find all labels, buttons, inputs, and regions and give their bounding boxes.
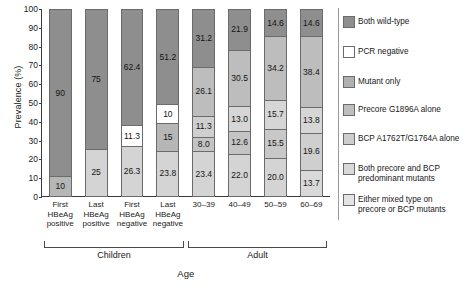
x-tick-line: 60–69: [294, 200, 328, 210]
bar-segment-value: 10: [163, 110, 172, 119]
bar-segment-value: 15.5: [267, 139, 284, 148]
legend-label: Both precore and BCP predominant mutants: [358, 163, 440, 183]
bar-segment-value: 34.2: [267, 64, 284, 73]
bar-segment-value: 75: [91, 75, 100, 84]
bar-segment: 38.4: [301, 37, 322, 108]
bar-column[interactable]: 14.634.215.715.520.0: [258, 9, 294, 197]
legend-swatch: [343, 163, 355, 175]
bar-segment-value: 62.4: [124, 63, 141, 72]
legend-label: Either mixed type on precore or BCP muta…: [358, 194, 446, 214]
bar-segment: 26.1: [193, 68, 214, 117]
bar-column[interactable]: 21.930.513.012.622.0: [222, 9, 258, 197]
bar-segment: 10: [50, 177, 71, 196]
x-tick-line: positive: [43, 219, 77, 229]
y-tick-10: 10: [12, 174, 38, 182]
bar-segment: 11.3: [122, 126, 143, 147]
legend-item[interactable]: Both wild-type: [343, 16, 409, 28]
legend-item[interactable]: Precore G1896A alone: [343, 104, 441, 116]
y-tick-100: 100: [12, 5, 38, 13]
bar-segment: 51.2: [157, 10, 178, 105]
x-tick-line: negative: [151, 219, 185, 229]
x-tick-line: negative: [115, 219, 149, 229]
legend-swatch: [343, 133, 355, 145]
legend-item[interactable]: Either mixed type on precore or BCP muta…: [343, 194, 446, 214]
x-tick-line: HBeAg: [115, 210, 149, 220]
legend-label: Mutant only: [358, 76, 400, 87]
bar-segment-value: 13.0: [231, 115, 248, 124]
x-tick-label: 50–59: [258, 200, 294, 229]
legend-item[interactable]: Mutant only: [343, 76, 400, 88]
bar-column[interactable]: 7525: [78, 9, 114, 197]
y-tick-50: 50: [12, 99, 38, 107]
bar-segment-value: 10: [56, 182, 65, 191]
x-tick-line: First: [115, 200, 149, 210]
x-tick-line: HBeAg: [151, 210, 185, 220]
bar-segment-value: 26.1: [195, 87, 212, 96]
x-tick-line: 50–59: [259, 200, 293, 210]
bar-column[interactable]: 9010: [42, 9, 78, 197]
bar-segment: 15.7: [265, 101, 286, 130]
legend-swatch: [343, 76, 355, 88]
legend-item[interactable]: PCR negative: [343, 46, 409, 58]
x-axis-title: Age: [42, 268, 329, 279]
bar-segment-value: 90: [56, 89, 65, 98]
bar-segment: 90: [50, 10, 71, 177]
legend-label: Precore G1896A alone: [358, 104, 441, 115]
bar-segment-value: 8.0: [198, 140, 210, 149]
bar-segment: 21.9: [229, 10, 250, 51]
x-tick-label: FirstHBeAgnegative: [114, 200, 150, 229]
bar-segment-value: 19.6: [303, 147, 320, 156]
bar-column[interactable]: 51.2101523.8: [150, 9, 186, 197]
bar-stack: 14.634.215.715.520.0: [264, 9, 287, 197]
bar-segment-value: 14.6: [303, 19, 320, 28]
bar-segment: 22.0: [229, 155, 250, 196]
group-bracket: [44, 241, 183, 248]
legend-swatch: [343, 194, 355, 206]
x-tick-label: 40–49: [222, 200, 258, 229]
y-tickmark-0: [39, 197, 43, 198]
y-tick-0: 0: [12, 193, 38, 201]
bar-segment: 31.2: [193, 10, 214, 68]
group-bracket-label: Children: [44, 250, 183, 261]
bar-segment: 34.2: [265, 37, 286, 101]
bar-column[interactable]: 62.411.326.3: [114, 9, 150, 197]
bar-segment-value: 13.7: [303, 179, 320, 188]
bar-segment: 30.5: [229, 51, 250, 108]
y-axis-tick-labels: 0102030405060708090100: [12, 9, 38, 197]
legend-swatch: [343, 104, 355, 116]
bar-segment: 23.8: [157, 152, 178, 196]
y-tick-40: 40: [12, 118, 38, 126]
bar-column[interactable]: 31.226.111.38.023.4: [186, 9, 222, 197]
x-tick-line: Last: [151, 200, 185, 210]
y-tick-90: 90: [12, 24, 38, 32]
legend-item[interactable]: BCP A1762T/G1764A alone: [343, 133, 459, 145]
bar-segment: 75: [86, 10, 107, 150]
stacked-bar-series: 9010752562.411.326.351.2101523.831.226.1…: [42, 9, 329, 197]
bar-segment: 15: [157, 124, 178, 152]
legend-item[interactable]: Both precore and BCP predominant mutants: [343, 163, 440, 183]
bar-segment-value: 11.3: [196, 122, 212, 131]
bar-stack: 14.638.413.819.613.7: [300, 9, 323, 197]
x-tick-line: HBeAg: [79, 210, 113, 220]
bar-segment: 62.4: [122, 10, 143, 126]
bar-column[interactable]: 14.638.413.819.613.7: [293, 9, 329, 197]
bar-segment: 26.3: [122, 147, 143, 196]
y-tick-60: 60: [12, 80, 38, 88]
legend-swatch: [343, 16, 355, 28]
chart-root: Prevalence (%) 0102030405060708090100 90…: [0, 0, 475, 302]
y-tick-20: 20: [12, 155, 38, 163]
group-brackets: ChildrenAdult: [42, 241, 329, 267]
bar-segment-value: 23.8: [160, 169, 177, 178]
x-tick-label: LastHBeAgpositive: [78, 200, 114, 229]
bar-segment: 12.6: [229, 132, 250, 155]
bar-segment-value: 51.2: [160, 53, 177, 62]
bar-stack: 51.2101523.8: [156, 9, 179, 197]
bar-stack: 9010: [49, 9, 72, 197]
bar-segment-value: 38.4: [303, 68, 320, 77]
bar-segment: 10: [157, 105, 178, 124]
bar-segment: 13.7: [301, 171, 322, 196]
x-tick-line: Last: [79, 200, 113, 210]
plot-area: Prevalence (%) 0102030405060708090100 90…: [0, 0, 340, 302]
bar-segment-value: 21.9: [231, 25, 248, 34]
x-tick-label: 30–39: [186, 200, 222, 229]
